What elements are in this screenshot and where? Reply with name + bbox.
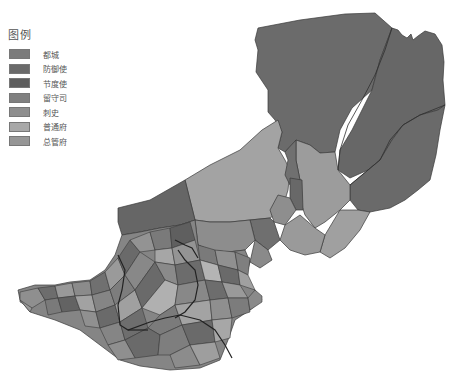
map-canvas <box>0 0 464 383</box>
